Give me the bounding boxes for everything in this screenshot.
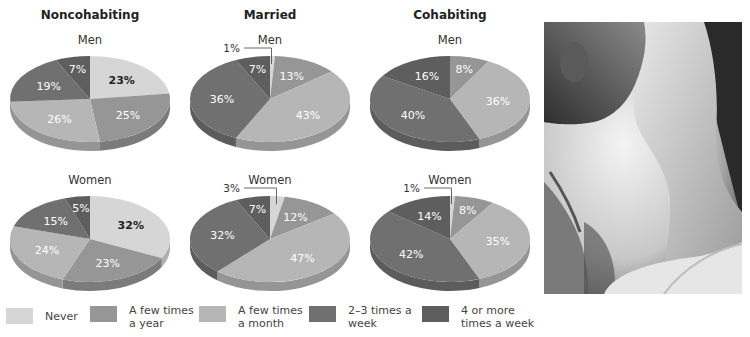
pie-value-label: 25% xyxy=(116,109,140,122)
pie-noncohabiting-men: Men23%25%26%19%7% xyxy=(0,28,180,158)
group-title-noncohabiting: Noncohabiting xyxy=(0,8,180,22)
legend-label-week23: 2–3 times a week xyxy=(348,304,412,330)
pie-value-label: 43% xyxy=(296,109,320,122)
pie-subtitle: Men xyxy=(78,33,102,47)
pie-value-label: 16% xyxy=(415,70,439,83)
pie-value-label: 1% xyxy=(223,42,240,54)
pie-value-label: 8% xyxy=(459,204,476,217)
pie-value-label: 40% xyxy=(401,109,425,122)
pie-value-label: 13% xyxy=(280,70,304,83)
legend: Never A few times a year A few times a m… xyxy=(6,304,536,334)
photo-image xyxy=(544,22,742,294)
legend-swatch-week4 xyxy=(422,306,449,322)
pie-value-label: 36% xyxy=(210,93,234,106)
legend-item-year: A few times a year xyxy=(90,304,194,330)
pie-married-women: Women3%12%47%32%7% xyxy=(180,168,360,298)
pie-value-label: 42% xyxy=(399,248,423,261)
legend-label-never: Never xyxy=(45,310,78,323)
legend-swatch-year xyxy=(90,306,117,322)
legend-item-week4: 4 or more times a week xyxy=(422,304,534,330)
pie-subtitle: Women xyxy=(248,173,291,187)
pie-value-label: 7% xyxy=(249,63,266,76)
pie-subtitle: Women xyxy=(68,173,111,187)
pie-married-men: Men1%13%43%36%7% xyxy=(180,28,360,158)
pie-value-label: 32% xyxy=(118,219,144,232)
pie-subtitle: Men xyxy=(258,33,282,47)
pie-value-label: 23% xyxy=(96,257,120,270)
pie-value-label: 7% xyxy=(69,63,86,76)
legend-item-month: A few times a month xyxy=(199,304,303,330)
pie-value-label: 19% xyxy=(36,80,60,93)
pie-value-label: 12% xyxy=(283,211,307,224)
legend-swatch-never xyxy=(6,308,33,324)
legend-label-month: A few times a month xyxy=(238,304,303,330)
legend-label-week4: 4 or more times a week xyxy=(461,304,534,330)
pie-value-label: 8% xyxy=(456,63,473,76)
pie-value-label: 5% xyxy=(72,202,89,215)
couple-photo xyxy=(544,22,742,294)
pie-value-label: 47% xyxy=(290,252,314,265)
pie-cohabiting-men: Men8%36%40%16% xyxy=(360,28,540,158)
pie-value-label: 14% xyxy=(417,210,441,223)
pie-subtitle: Men xyxy=(438,33,462,47)
pie-value-label: 36% xyxy=(486,95,510,108)
pie-value-label: 3% xyxy=(223,182,240,194)
legend-label-year: A few times a year xyxy=(129,304,194,330)
legend-item-never: Never xyxy=(6,306,78,324)
legend-swatch-month xyxy=(199,306,226,322)
pie-value-label: 32% xyxy=(210,229,234,242)
pie-cohabiting-women: Women1%8%35%42%14% xyxy=(360,168,540,298)
pie-value-label: 24% xyxy=(35,244,59,257)
pie-value-label: 35% xyxy=(486,235,510,248)
pie-subtitle: Women xyxy=(428,173,471,187)
pie-value-label: 15% xyxy=(44,215,68,228)
pie-value-label: 23% xyxy=(109,74,135,87)
pie-value-label: 26% xyxy=(47,113,71,126)
legend-swatch-week23 xyxy=(309,306,336,322)
legend-item-week23: 2–3 times a week xyxy=(309,304,412,330)
group-title-married: Married xyxy=(180,8,360,22)
pie-noncohabiting-women: Women32%23%24%15%5% xyxy=(0,168,180,298)
group-title-cohabiting: Cohabiting xyxy=(360,8,540,22)
pie-value-label: 7% xyxy=(249,203,266,216)
pie-value-label: 1% xyxy=(403,182,420,194)
